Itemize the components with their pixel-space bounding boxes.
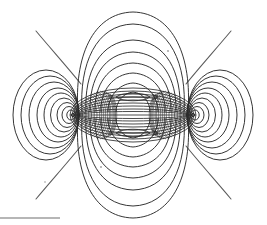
scan-speck-3 <box>44 181 46 183</box>
right-lobe-field-lines-group <box>187 70 253 160</box>
field-line-drawing <box>0 0 267 225</box>
scan-speck-2 <box>100 166 102 168</box>
scan-artifact-bar <box>0 217 60 219</box>
lower-arch-2 <box>82 118 185 206</box>
escaping-line-bottom-left <box>36 146 81 199</box>
left-lobe-field-lines-group <box>13 70 79 160</box>
escaping-line-top-left <box>36 31 81 84</box>
central-equipotential-ellipses-group <box>70 88 196 142</box>
upper-arch-2 <box>82 24 185 112</box>
dipole-field-figure <box>0 0 267 225</box>
scan-speck-1 <box>167 50 169 52</box>
escaping-line-bottom-right <box>186 146 231 199</box>
escaping-line-top-right <box>186 31 231 84</box>
